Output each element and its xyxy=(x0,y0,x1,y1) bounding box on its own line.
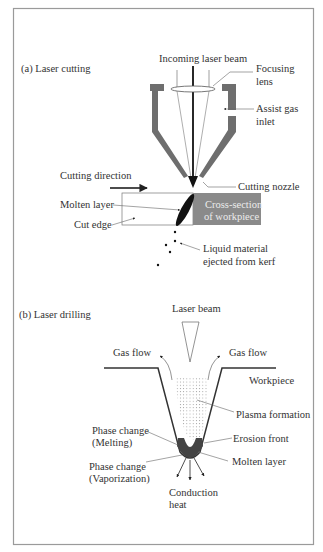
panel-b-title: (b) Laser drilling xyxy=(19,309,91,321)
conduction-label-2: heat xyxy=(169,499,187,510)
phase-vapor-label-2: (Vaporization) xyxy=(89,473,150,485)
panel-a-title: (a) Laser cutting xyxy=(21,63,91,75)
focusing-lens-label-2: lens xyxy=(256,76,273,87)
liquid-material-label-2: ejected from kerf xyxy=(203,256,276,267)
workpiece-label: Workpiece xyxy=(249,375,295,386)
focusing-lens xyxy=(171,86,215,92)
assist-gas-label-2: inlet xyxy=(256,116,275,127)
plasma-label: Plasma formation xyxy=(236,409,311,420)
conduction-label-1: Conduction xyxy=(169,487,219,498)
cross-section-label-1: Cross-section xyxy=(205,199,263,210)
liquid-material-label-1: Liquid material xyxy=(203,243,268,254)
cutting-direction-label: Cutting direction xyxy=(60,170,132,181)
laser-process-diagram: (a) Laser cutting Incoming laser beam Fo… xyxy=(0,0,323,552)
phase-melting-label-2: (Melting) xyxy=(92,437,133,449)
incoming-beam-label: Incoming laser beam xyxy=(159,53,247,64)
laser-beam-label: Laser beam xyxy=(172,303,221,314)
cut-edge-label: Cut edge xyxy=(74,219,112,230)
gas-flow-right-label: Gas flow xyxy=(229,347,268,358)
focusing-lens-label-1: Focusing xyxy=(256,63,295,74)
molten-layer-label-b: Molten layer xyxy=(232,456,286,467)
cutting-nozzle-label: Cutting nozzle xyxy=(238,181,300,192)
molten-layer-label: Molten layer xyxy=(60,199,114,210)
phase-vapor-label-1: Phase change xyxy=(89,461,146,472)
cross-section-label-2: of workpiece xyxy=(204,211,259,222)
erosion-front-label: Erosion front xyxy=(233,433,289,444)
assist-gas-label-1: Assist gas xyxy=(256,103,298,114)
phase-melting-label-1: Phase change xyxy=(92,425,149,436)
gas-flow-left-label: Gas flow xyxy=(113,347,152,358)
